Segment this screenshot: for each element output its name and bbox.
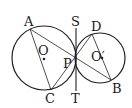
label-c: C (45, 91, 55, 106)
label-b: B (112, 81, 122, 96)
label-t: T (71, 91, 80, 106)
label-o: O (38, 43, 49, 58)
label-s: S (71, 14, 80, 29)
label-a: A (23, 14, 34, 29)
label-d: D (91, 19, 101, 34)
label-o-prime: O′ (91, 49, 105, 64)
geometry-diagram: A S D O O′ P B C T (0, 0, 132, 108)
chord-ac (30, 29, 51, 90)
label-p: P (63, 56, 72, 71)
center-o-dot (43, 58, 46, 61)
